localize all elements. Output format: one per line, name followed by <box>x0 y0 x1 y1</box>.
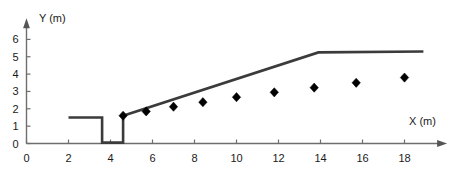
y-tick-label: 2 <box>12 103 18 115</box>
x-tick-label: 14 <box>314 152 326 164</box>
data-point-marker <box>352 78 360 87</box>
x-axis-arrow-icon <box>437 140 447 147</box>
x-tick-label: 0 <box>23 152 29 164</box>
y-tick-label: 0 <box>12 138 18 150</box>
x-tick-label: 2 <box>65 152 71 164</box>
data-point-marker <box>400 73 408 82</box>
x-tick-label: 16 <box>356 152 368 164</box>
data-series-group <box>69 52 424 143</box>
y-axis-label: Y (m) <box>39 12 66 24</box>
y-tick-label: 5 <box>12 51 18 63</box>
chart-container: 0246810121416180123456 Y (m) X (m) <box>0 0 455 171</box>
x-tick-label: 10 <box>230 152 242 164</box>
y-tick-label: 1 <box>12 120 18 132</box>
x-tick-label: 4 <box>107 152 113 164</box>
data-markers-group <box>119 73 409 120</box>
ticks-group <box>27 39 405 143</box>
data-point-marker <box>310 83 318 92</box>
x-tick-label: 12 <box>272 152 284 164</box>
data-point-marker <box>199 98 207 107</box>
y-tick-label: 6 <box>12 33 18 45</box>
x-axis-label: X (m) <box>409 115 436 127</box>
y-axis-arrow-icon <box>23 18 30 28</box>
y-tick-label: 4 <box>12 68 18 80</box>
data-point-marker <box>169 102 177 111</box>
x-tick-label: 6 <box>149 152 155 164</box>
x-tick-label: 18 <box>398 152 410 164</box>
data-point-marker <box>232 93 240 102</box>
data-point-marker <box>270 88 278 97</box>
data-point-marker <box>119 111 127 120</box>
chart-svg: 0246810121416180123456 Y (m) X (m) <box>0 0 455 171</box>
series-line-profile <box>69 52 424 143</box>
y-tick-label: 3 <box>12 85 18 97</box>
axes-group <box>23 18 447 147</box>
x-tick-label: 8 <box>191 152 197 164</box>
